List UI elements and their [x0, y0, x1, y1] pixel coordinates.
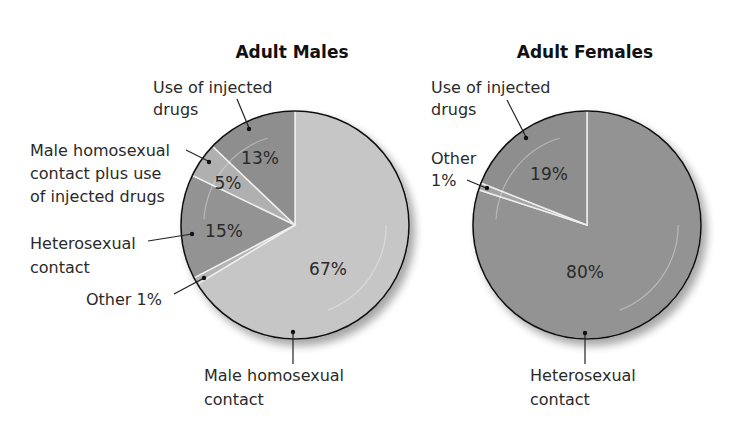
callout-mhc-male: Male homosexual contact — [204, 366, 349, 409]
data-label-use-of-injected-drugs: 13% — [241, 148, 279, 168]
callout-other-female: Other 1% — [431, 149, 482, 190]
leader-dot — [207, 160, 211, 164]
callout-mhp-idu-male: Male homosexual contact plus use of inje… — [30, 141, 175, 206]
data-label-heterosexual-contact: 80% — [566, 262, 604, 282]
leader-line — [507, 100, 526, 137]
pie-females — [473, 111, 701, 339]
leader-dot — [485, 186, 489, 190]
females-title: Adult Females — [517, 42, 653, 62]
data-label-male-homosexual-contact-plus-use-of-injected-drugs: 5% — [215, 173, 242, 193]
leader-dot — [202, 276, 206, 280]
callout-hetero-male: Heterosexual contact — [30, 234, 141, 277]
callout-other-male: Other 1% — [86, 290, 162, 309]
leader-dot — [583, 331, 587, 335]
leader-dot — [291, 330, 295, 334]
leader-dot — [190, 232, 194, 236]
leader-dot — [247, 127, 251, 131]
data-label-heterosexual-contact: 15% — [205, 221, 243, 241]
data-label-male-homosexual-contact: 67% — [309, 259, 347, 279]
callout-idu-female: Use of injected drugs — [431, 78, 556, 119]
males-title: Adult Males — [235, 42, 348, 62]
callout-hetero-female: Heterosexual contact — [530, 366, 641, 409]
data-label-use-of-injected-drugs: 19% — [530, 164, 568, 184]
callout-idu-male: Use of injected drugs — [153, 78, 278, 119]
leader-dot — [524, 136, 528, 140]
pie-charts: Adult Males Use of injected drugs Male h… — [0, 0, 735, 444]
